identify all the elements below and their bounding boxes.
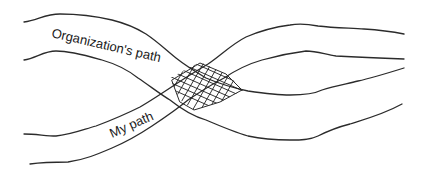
my-path-label: My path (107, 108, 155, 141)
crossing-paths-diagram: Organization's path My path (0, 0, 422, 183)
organization-path: Organization's path (24, 14, 404, 140)
organization-path-label: Organization's path (50, 25, 162, 65)
overlap-crosshatch (156, 48, 250, 124)
my-path-bottom-edge (30, 51, 404, 164)
